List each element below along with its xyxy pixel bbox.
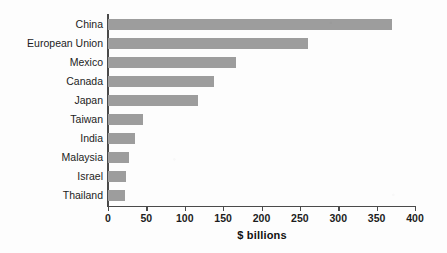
- category-label: Japan: [0, 95, 103, 106]
- bar: [108, 133, 135, 144]
- category-axis-labels: ChinaEuropean UnionMexicoCanadaJapanTaiw…: [0, 15, 103, 205]
- x-tick-mark: [377, 206, 378, 211]
- bar: [108, 152, 129, 163]
- category-label: Israel: [0, 171, 103, 182]
- x-tick-mark: [262, 206, 263, 211]
- x-tick-mark: [223, 206, 224, 211]
- x-tick-mark: [300, 206, 301, 211]
- bar: [108, 76, 214, 87]
- category-label: European Union: [0, 38, 103, 49]
- bar-chart-figure: ChinaEuropean UnionMexicoCanadaJapanTaiw…: [0, 0, 447, 253]
- x-axis-title: $ billions: [108, 229, 416, 241]
- category-label: China: [0, 19, 103, 30]
- bar: [108, 95, 198, 106]
- category-label: Malaysia: [0, 152, 103, 163]
- x-tick-label: 150: [214, 212, 232, 224]
- x-tick-label: 400: [406, 212, 424, 224]
- bar: [108, 171, 126, 182]
- x-tick-label: 250: [291, 212, 309, 224]
- bar: [108, 38, 308, 49]
- x-tick-mark: [108, 206, 109, 211]
- x-tick-label: 100: [176, 212, 194, 224]
- bar: [108, 57, 236, 68]
- x-tick-label: 0: [105, 212, 111, 224]
- bar: [108, 190, 125, 201]
- x-tick-label: 50: [141, 212, 153, 224]
- plot-area: [108, 15, 415, 205]
- x-tick-label: 350: [368, 212, 386, 224]
- category-label: Canada: [0, 76, 103, 87]
- x-tick-mark: [146, 206, 147, 211]
- bar: [108, 19, 392, 30]
- category-label: Taiwan: [0, 114, 103, 125]
- category-label: Mexico: [0, 57, 103, 68]
- x-tick-mark: [415, 206, 416, 211]
- bar: [108, 114, 143, 125]
- x-tick-mark: [338, 206, 339, 211]
- category-label: India: [0, 133, 103, 144]
- category-label: Thailand: [0, 190, 103, 201]
- x-tick-label: 200: [253, 212, 271, 224]
- x-tick-mark: [185, 206, 186, 211]
- x-tick-label: 300: [329, 212, 347, 224]
